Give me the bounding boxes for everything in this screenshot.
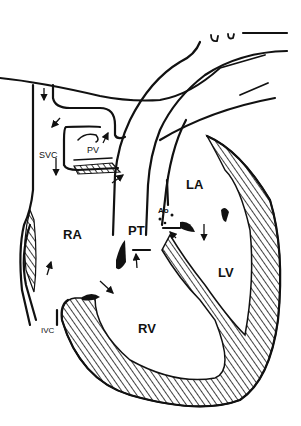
arrow-svc-2	[52, 118, 60, 127]
arrow-pv	[103, 133, 108, 143]
pv-floor	[74, 163, 120, 174]
label-ivc: IVC	[41, 327, 54, 335]
label-ra: RA	[63, 228, 82, 241]
label-lv: LV	[218, 266, 234, 279]
label-ao: Ao	[158, 207, 169, 215]
mitral-valve-right	[221, 208, 229, 222]
arrow-ivc	[47, 262, 51, 275]
label-rv: RV	[138, 322, 156, 335]
pulmonary-valve	[116, 240, 126, 269]
lv-wall	[62, 136, 280, 406]
label-svc: SVC	[39, 151, 58, 160]
tricuspid-valve	[82, 294, 100, 301]
heart-drawing	[0, 0, 301, 426]
pulmonary-artery	[0, 55, 265, 101]
arrow-ra-rv	[100, 281, 113, 293]
arrow-pt	[136, 254, 137, 268]
arrow-pv-out	[112, 175, 123, 183]
label-pv: PV	[87, 146, 99, 155]
mitral-valve-left	[180, 222, 195, 232]
label-pt: PT	[128, 224, 145, 237]
label-la: LA	[186, 178, 203, 191]
heart-diagram: SVC PV RA PT Ao LA LV RV IVC	[0, 0, 301, 426]
